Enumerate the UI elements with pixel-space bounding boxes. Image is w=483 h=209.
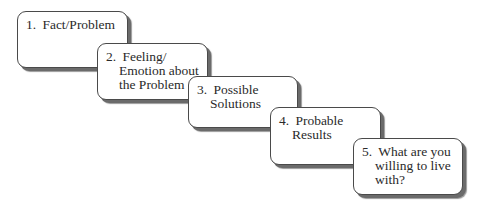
step-2-text-2: Emotion about bbox=[106, 64, 203, 78]
step-1-line-1: 1. Fact/Problem bbox=[26, 18, 123, 32]
step-2-line-1: 2. Feeling/ bbox=[106, 50, 203, 64]
step-4-text-1: Probable bbox=[295, 113, 343, 128]
step-5-number: 5. bbox=[362, 145, 375, 159]
step-3-line-1: 3. Possible bbox=[197, 83, 293, 97]
step-4-number: 4. bbox=[279, 114, 292, 128]
step-5-text-1: What are you bbox=[378, 144, 451, 159]
step-3-number: 3. bbox=[197, 83, 210, 97]
step-2-text-1: Feeling/ bbox=[122, 49, 166, 64]
step-1-text: Fact/Problem bbox=[42, 17, 115, 32]
step-2-number: 2. bbox=[106, 50, 119, 64]
step-5-text-2: willing to live bbox=[362, 159, 458, 173]
step-5-line-1: 5. What are you bbox=[362, 145, 458, 159]
step-3-text-1: Possible bbox=[213, 82, 258, 97]
step-5-text-3: with? bbox=[362, 173, 458, 187]
step-5-box: 5. What are you willing to live with? bbox=[353, 138, 463, 195]
step-4-line-1: 4. Probable bbox=[279, 114, 376, 128]
step-1-number: 1. bbox=[26, 18, 39, 32]
